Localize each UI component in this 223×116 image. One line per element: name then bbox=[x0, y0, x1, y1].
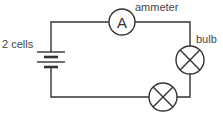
wire-top-right bbox=[135, 22, 190, 46]
cells-label: 2 cells bbox=[2, 38, 34, 50]
bulb-symbol-bottom bbox=[149, 83, 177, 111]
bulb-label: bulb bbox=[196, 33, 217, 45]
circuit-diagram: A 2 cells ammeter bulb bbox=[0, 0, 223, 116]
ammeter-label: ammeter bbox=[135, 1, 179, 13]
battery-symbol bbox=[37, 52, 65, 67]
bulb-symbol-right bbox=[176, 46, 204, 74]
wire-bottom bbox=[51, 67, 149, 97]
wire-top-left bbox=[51, 22, 109, 52]
wires bbox=[51, 22, 190, 97]
ammeter-symbol: A bbox=[109, 9, 135, 35]
ammeter-symbol-letter: A bbox=[117, 14, 127, 31]
wire-right-lower bbox=[177, 74, 190, 97]
